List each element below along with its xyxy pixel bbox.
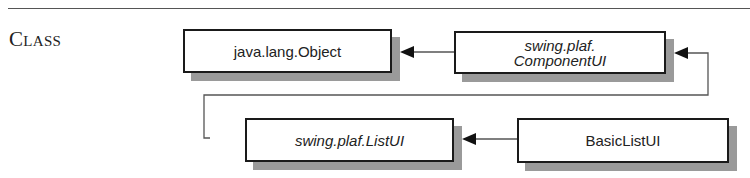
class-box-componentui: swing.plaf. ComponentUI	[454, 31, 666, 74]
class-name: java.lang.Object	[234, 44, 342, 59]
class-box-object: java.lang.Object	[183, 29, 392, 73]
class-name-line2: ComponentUI	[514, 53, 607, 68]
class-name: swing.plaf.ListUI	[295, 133, 404, 148]
class-box-basiclistui: BasicListUI	[517, 118, 729, 163]
class-name: BasicListUI	[585, 133, 660, 148]
class-name-line1: swing.plaf.	[525, 38, 596, 53]
arrowhead-icon	[462, 133, 476, 145]
arrowhead-icon	[674, 47, 688, 59]
arrowhead-icon	[400, 46, 414, 58]
class-box-listui: swing.plaf.ListUI	[245, 118, 454, 162]
